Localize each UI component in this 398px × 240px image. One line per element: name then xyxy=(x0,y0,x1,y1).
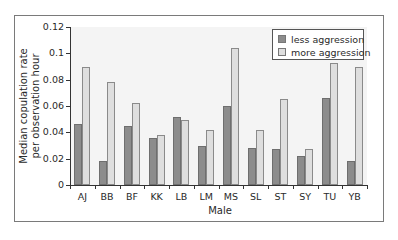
bar-more-aggression-sl xyxy=(256,130,264,185)
y-tick xyxy=(66,159,70,160)
legend-label: more aggression xyxy=(291,47,370,58)
bar-more-aggression-lb xyxy=(181,120,189,185)
y-tick xyxy=(66,27,70,28)
x-tick-label: SY xyxy=(293,191,318,202)
bar-more-aggression-kk xyxy=(157,135,165,185)
bar-less-aggression-ms xyxy=(223,106,231,185)
x-tick-label: LM xyxy=(194,191,219,202)
x-tick xyxy=(70,185,71,189)
bar-more-aggression-yb xyxy=(355,67,363,186)
legend-swatch-icon xyxy=(278,35,286,43)
x-tick xyxy=(342,185,343,189)
legend-item-less-aggression: less aggression xyxy=(278,33,364,45)
y-axis-label-line-2: per observation hour xyxy=(30,26,42,186)
bar-less-aggression-yb xyxy=(347,161,355,185)
x-tick-label: KK xyxy=(144,191,169,202)
x-tick-label: BF xyxy=(120,191,145,202)
x-tick xyxy=(144,185,145,189)
bar-less-aggression-sl xyxy=(248,148,256,185)
bar-more-aggression-aj xyxy=(82,67,90,186)
y-tick-label: 0.04 xyxy=(43,127,64,137)
bar-less-aggression-bb xyxy=(99,161,107,185)
bar-more-aggression-bb xyxy=(107,82,115,185)
y-axis-label: Median copulation rate per observation h… xyxy=(18,26,42,186)
bar-more-aggression-st xyxy=(280,99,288,185)
legend: less aggression more aggression xyxy=(272,29,364,60)
x-tick-label: AJ xyxy=(70,191,95,202)
y-tick-label: 0.1 xyxy=(49,48,64,58)
x-tick-label: MS xyxy=(219,191,244,202)
y-tick-label: 0.02 xyxy=(43,154,64,164)
bar-less-aggression-bf xyxy=(124,126,132,185)
y-tick xyxy=(66,132,70,133)
y-tick xyxy=(66,53,70,54)
x-axis-label: Male xyxy=(190,205,250,216)
y-tick-label: 0.08 xyxy=(43,75,64,85)
x-tick-label: YB xyxy=(342,191,367,202)
bar-less-aggression-sy xyxy=(297,156,305,185)
x-tick xyxy=(169,185,170,189)
x-tick xyxy=(243,185,244,189)
x-tick xyxy=(268,185,269,189)
bar-less-aggression-lb xyxy=(173,117,181,185)
bar-less-aggression-st xyxy=(272,149,280,185)
x-tick xyxy=(120,185,121,189)
y-tick-label: 0.06 xyxy=(43,101,64,111)
y-tick xyxy=(66,106,70,107)
bar-less-aggression-aj xyxy=(74,124,82,185)
x-tick-label: LB xyxy=(169,191,194,202)
x-tick xyxy=(194,185,195,189)
bar-more-aggression-ms xyxy=(231,48,239,185)
legend-item-more-aggression: more aggression xyxy=(278,46,370,58)
x-tick-label: SL xyxy=(243,191,268,202)
x-tick xyxy=(219,185,220,189)
legend-swatch-icon xyxy=(278,48,286,56)
legend-label: less aggression xyxy=(291,34,364,45)
y-tick-label: 0 xyxy=(58,180,64,190)
x-tick xyxy=(293,185,294,189)
x-tick-label: TU xyxy=(318,191,343,202)
x-tick xyxy=(367,185,368,189)
bar-more-aggression-tu xyxy=(330,63,338,185)
y-axis-label-line-1: Median copulation rate xyxy=(18,26,30,186)
bar-less-aggression-kk xyxy=(149,138,157,185)
bar-more-aggression-lm xyxy=(206,130,214,185)
y-tick-label: 0.12 xyxy=(43,22,64,32)
bar-more-aggression-bf xyxy=(132,103,140,185)
x-tick-label: ST xyxy=(268,191,293,202)
y-axis xyxy=(70,27,71,186)
bar-less-aggression-lm xyxy=(198,146,206,186)
bar-less-aggression-tu xyxy=(322,98,330,185)
x-tick xyxy=(318,185,319,189)
y-tick xyxy=(66,80,70,81)
x-tick-label: BB xyxy=(95,191,120,202)
bar-more-aggression-sy xyxy=(305,149,313,185)
x-tick xyxy=(95,185,96,189)
